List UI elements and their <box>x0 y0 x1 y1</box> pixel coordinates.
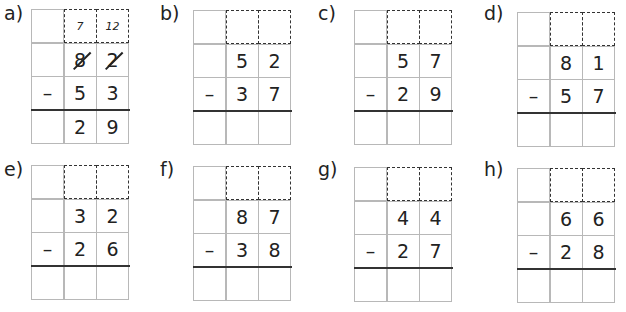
subtrahend-tens: 3 <box>226 77 259 111</box>
minus-sign-value: – <box>205 239 215 261</box>
empty-cell <box>31 165 64 199</box>
answer-ones-value: 9 <box>106 116 118 138</box>
minuend-ones: 6 <box>582 202 615 236</box>
problem-label: b) <box>160 2 179 24</box>
empty-cell <box>517 269 550 303</box>
equals-line <box>31 265 130 267</box>
minuend-ones-value: 6 <box>592 208 604 230</box>
subtraction-grid: 32–26 <box>31 165 129 300</box>
minus-sign-value: – <box>43 82 53 104</box>
equals-line <box>517 112 616 114</box>
minuend-tens-value: 5 <box>397 50 409 72</box>
carry-cell-ones-value: 12 <box>106 20 120 33</box>
problem-label: h) <box>484 158 503 180</box>
subtrahend-ones: 6 <box>96 232 129 266</box>
subtrahend-tens-value: 3 <box>236 83 248 105</box>
subtrahend-ones: 8 <box>258 233 291 267</box>
empty-cell <box>517 46 550 80</box>
answer-ones[interactable] <box>582 113 615 147</box>
equals-line <box>31 109 130 111</box>
answer-tens[interactable] <box>226 111 259 145</box>
carry-cell-ones[interactable] <box>258 166 291 200</box>
minuend-ones: 2 <box>96 43 129 77</box>
answer-tens[interactable] <box>550 269 583 303</box>
problem-label: d) <box>484 2 503 24</box>
empty-cell <box>31 9 64 43</box>
empty-cell <box>193 10 226 44</box>
carry-cell-ones[interactable] <box>582 168 615 202</box>
carry-cell-tens[interactable]: 7 <box>64 9 97 43</box>
subtrahend-ones: 7 <box>258 77 291 111</box>
subtrahend-ones-value: 7 <box>268 83 280 105</box>
carry-cell-ones[interactable] <box>582 12 615 46</box>
answer-tens[interactable] <box>226 267 259 301</box>
subtrahend-ones-value: 8 <box>592 241 604 263</box>
carry-cell-ones[interactable] <box>96 165 129 199</box>
minus-sign: – <box>354 77 387 111</box>
answer-tens[interactable]: 2 <box>64 110 97 144</box>
carry-cell-tens[interactable] <box>550 168 583 202</box>
empty-cell <box>354 111 387 145</box>
carry-cell-ones[interactable] <box>419 167 452 201</box>
carry-cell-tens[interactable] <box>387 167 420 201</box>
minuend-tens-value: 8 <box>236 206 248 228</box>
subtrahend-tens-value: 2 <box>74 238 86 260</box>
minuend-ones: 1 <box>582 46 615 80</box>
minuend-ones: 2 <box>96 199 129 233</box>
carry-cell-tens-value: 7 <box>77 20 84 33</box>
minuend-tens-value: 4 <box>397 207 409 229</box>
answer-tens-value: 2 <box>74 116 86 138</box>
minus-sign: – <box>517 79 550 113</box>
problem-label: e) <box>4 158 23 180</box>
subtraction-grid: 44–27 <box>354 167 452 302</box>
answer-tens[interactable] <box>387 268 420 302</box>
problem-label: f) <box>160 158 174 180</box>
carry-cell-ones[interactable]: 12 <box>96 9 129 43</box>
answer-tens[interactable] <box>387 111 420 145</box>
subtrahend-tens: 5 <box>64 76 97 110</box>
subtrahend-tens-value: 2 <box>560 241 572 263</box>
answer-ones[interactable]: 9 <box>96 110 129 144</box>
subtraction-grid: 81–57 <box>517 12 615 147</box>
minuend-tens: 8 <box>64 43 97 77</box>
answer-ones[interactable] <box>96 266 129 300</box>
answer-tens[interactable] <box>64 266 97 300</box>
carry-cell-tens[interactable] <box>387 10 420 44</box>
empty-cell <box>31 110 64 144</box>
subtrahend-ones: 8 <box>582 235 615 269</box>
subtraction-grid: 66–28 <box>517 168 615 303</box>
empty-cell <box>193 200 226 234</box>
empty-cell <box>517 168 550 202</box>
minus-sign-value: – <box>529 85 539 107</box>
carry-cell-tens[interactable] <box>64 165 97 199</box>
equals-line <box>193 266 292 268</box>
answer-ones[interactable] <box>258 267 291 301</box>
minuend-ones-value: 1 <box>592 52 604 74</box>
subtrahend-tens-value: 5 <box>560 85 572 107</box>
carry-cell-ones[interactable] <box>419 10 452 44</box>
minus-sign: – <box>193 77 226 111</box>
answer-ones[interactable] <box>419 111 452 145</box>
empty-cell <box>354 44 387 78</box>
subtrahend-ones: 9 <box>419 77 452 111</box>
carry-cell-ones[interactable] <box>258 10 291 44</box>
equals-line <box>354 110 453 112</box>
empty-cell <box>354 10 387 44</box>
answer-ones[interactable] <box>419 268 452 302</box>
subtrahend-tens: 2 <box>387 77 420 111</box>
minus-sign-value: – <box>205 83 215 105</box>
carry-cell-tens[interactable] <box>550 12 583 46</box>
minuend-tens: 8 <box>550 46 583 80</box>
carry-cell-tens[interactable] <box>226 166 259 200</box>
subtraction-grid: 57–29 <box>354 10 452 145</box>
subtraction-grid: 52–37 <box>193 10 291 145</box>
minuend-ones: 7 <box>258 200 291 234</box>
answer-ones[interactable] <box>258 111 291 145</box>
answer-ones[interactable] <box>582 269 615 303</box>
minuend-tens-value: 3 <box>74 205 86 227</box>
subtrahend-ones-value: 9 <box>429 83 441 105</box>
carry-cell-tens[interactable] <box>226 10 259 44</box>
subtrahend-ones: 3 <box>96 76 129 110</box>
answer-tens[interactable] <box>550 113 583 147</box>
empty-cell <box>517 202 550 236</box>
